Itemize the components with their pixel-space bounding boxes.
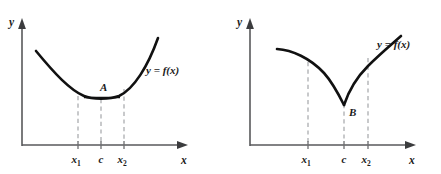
- tick-label-c-base: c: [342, 153, 347, 165]
- tick-label-x1: x1: [70, 153, 81, 168]
- function-label: y = f(x): [375, 38, 410, 51]
- function-label: y = f(x): [144, 64, 179, 77]
- x-axis-label: x: [180, 154, 187, 166]
- y-axis-label: y: [7, 16, 15, 29]
- y-axis-arrowhead: [246, 18, 254, 29]
- point-label-A: A: [99, 81, 107, 93]
- figure-root: y x A y = f(x) x1 c: [0, 0, 441, 174]
- x-axis-arrowhead: [177, 141, 188, 149]
- tick-label-x2: x2: [360, 153, 371, 168]
- y-axis-right: y: [235, 16, 254, 146]
- tick-label-x1: x1: [300, 153, 311, 168]
- tick-label-x2-subscript: 2: [367, 159, 371, 168]
- tick-label-x2-subscript: 2: [123, 159, 127, 168]
- tick-label-x2: x2: [116, 153, 127, 168]
- x-axis-arrowhead: [405, 141, 416, 149]
- tick-label-c-base: c: [99, 153, 104, 165]
- x-axis-left: x: [22, 141, 188, 166]
- y-axis-left: y: [7, 16, 26, 146]
- y-axis-arrowhead: [18, 18, 26, 29]
- tick-label-x1-subscript: 1: [307, 159, 311, 168]
- point-label-B: B: [348, 106, 356, 118]
- x-axis-right: x: [250, 141, 416, 166]
- cusp-minimum-panel: y x B y = f(x) x1 c: [220, 0, 441, 174]
- tick-label-c: c: [99, 153, 104, 165]
- smooth-minimum-panel: y x A y = f(x) x1 c: [0, 0, 220, 174]
- tick-label-c: c: [342, 153, 347, 165]
- tick-label-x1-subscript: 1: [77, 159, 81, 168]
- dashed-guides-right: [308, 58, 368, 142]
- x-axis-label: x: [408, 154, 415, 166]
- y-axis-label: y: [235, 16, 243, 29]
- function-curve: [36, 38, 158, 99]
- function-curve-left-branch: [277, 49, 344, 105]
- x-tick-labels-left: x1 c x2: [70, 153, 127, 168]
- x-tick-labels-right: x1 c x2: [300, 153, 371, 168]
